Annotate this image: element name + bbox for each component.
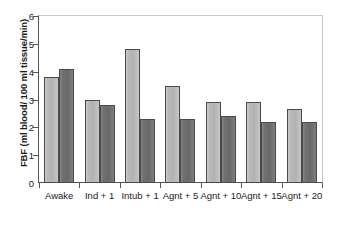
bar-agnt-15-series-2 <box>261 122 276 183</box>
y-tick-label: 1 <box>4 151 34 161</box>
bar-group <box>120 16 160 183</box>
y-tick-label: 6 <box>4 12 34 22</box>
y-tick-label: 2 <box>4 123 34 133</box>
bar-group <box>282 16 322 183</box>
x-tick-mark <box>322 183 323 188</box>
y-tick-label: 3 <box>4 96 34 106</box>
bar-agnt-5-series-1 <box>165 86 180 183</box>
bar-awake-series-1 <box>44 77 59 183</box>
x-tick-mark <box>241 183 242 188</box>
bar-ind-1-series-1 <box>85 100 100 184</box>
bar-group <box>79 16 119 183</box>
bar-group <box>241 16 281 183</box>
x-category-label: Agnt + 20 <box>277 190 327 201</box>
bar-agnt-10-series-1 <box>206 102 221 183</box>
bar-intub-1-series-1 <box>125 49 140 183</box>
bar-chart-figure: FBF (ml blood/ 100 ml tissue/min) 012345… <box>0 0 338 227</box>
bar-awake-series-2 <box>59 69 74 183</box>
bar-agnt-20-series-2 <box>302 122 317 183</box>
bar-agnt-10-series-2 <box>221 116 236 183</box>
x-tick-mark <box>160 183 161 188</box>
bar-group <box>160 16 200 183</box>
y-tick-label: 0 <box>4 179 34 189</box>
y-tick-label: 4 <box>4 68 34 78</box>
bar-ind-1-series-2 <box>100 105 115 183</box>
bar-agnt-15-series-1 <box>246 102 261 183</box>
bar-group <box>39 16 79 183</box>
x-tick-mark <box>282 183 283 188</box>
x-tick-mark <box>79 183 80 188</box>
bar-intub-1-series-2 <box>140 119 155 183</box>
x-tick-mark <box>120 183 121 188</box>
x-tick-mark <box>201 183 202 188</box>
x-tick-mark <box>39 183 40 188</box>
bar-agnt-20-series-1 <box>287 109 302 183</box>
bar-group <box>201 16 241 183</box>
y-tick-label: 5 <box>4 40 34 50</box>
bars-plot-area <box>39 16 322 183</box>
bar-agnt-5-series-2 <box>180 119 195 183</box>
